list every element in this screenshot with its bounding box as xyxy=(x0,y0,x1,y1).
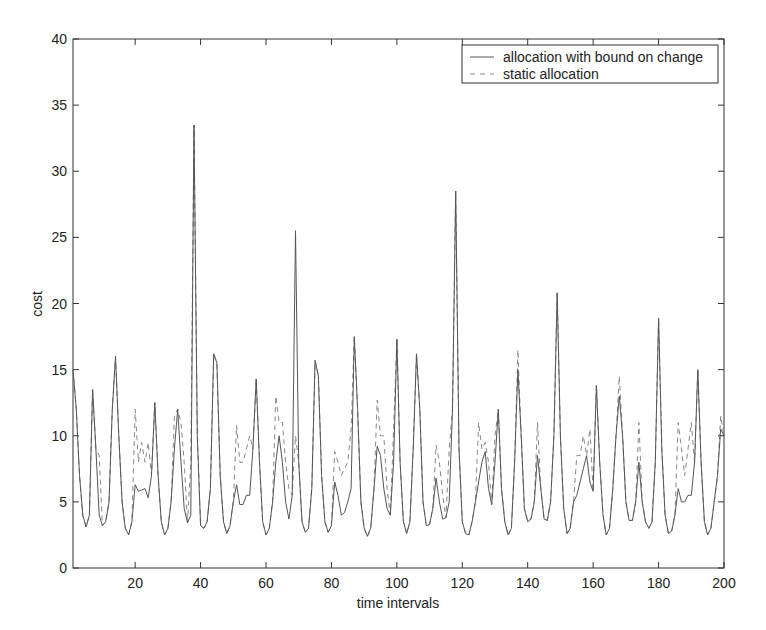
legend-label-static: static allocation xyxy=(503,66,599,82)
y-tick-label: 35 xyxy=(51,97,67,113)
legend-label-bound: allocation with bound on change xyxy=(503,49,703,65)
y-tick-label: 20 xyxy=(51,296,67,312)
x-tick-label: 200 xyxy=(712,575,736,591)
y-tick-label: 15 xyxy=(51,362,67,378)
x-tick-label: 40 xyxy=(193,575,209,591)
line-chart: 0510152025303540 20406080100120140160180… xyxy=(0,0,766,630)
x-tick-label: 120 xyxy=(451,575,475,591)
x-tick-label: 160 xyxy=(581,575,605,591)
x-axis-label: time intervals xyxy=(357,595,439,611)
x-tick-label: 100 xyxy=(385,575,409,591)
legend: allocation with bound on change static a… xyxy=(462,45,718,83)
x-tick-label: 180 xyxy=(647,575,671,591)
y-tick-label: 25 xyxy=(51,229,67,245)
y-tick-label: 0 xyxy=(59,560,67,576)
x-tick-label: 60 xyxy=(258,575,274,591)
plot-area xyxy=(73,39,724,568)
x-tick-label: 140 xyxy=(516,575,540,591)
y-tick-label: 5 xyxy=(59,494,67,510)
y-tick-label: 10 xyxy=(51,428,67,444)
y-tick-label: 30 xyxy=(51,163,67,179)
y-axis-label: cost xyxy=(29,291,45,317)
x-tick-label: 80 xyxy=(324,575,340,591)
x-tick-label: 20 xyxy=(127,575,143,591)
y-tick-label: 40 xyxy=(51,31,67,47)
